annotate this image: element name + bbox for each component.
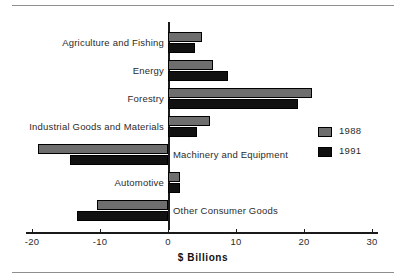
x-tick-label: -20 [25, 236, 40, 247]
bar-1988-6 [97, 200, 168, 210]
category-label: Energy [0, 64, 164, 77]
category-label: Machinery and Equipment [173, 148, 288, 161]
x-tick-0 [168, 229, 169, 234]
bar-1991-6 [77, 211, 168, 221]
legend-item-1988: 1988 [318, 124, 398, 144]
bar-1988-5 [168, 172, 180, 182]
bar-1991-4 [70, 155, 168, 165]
legend-label: 1991 [339, 145, 361, 156]
x-tick--10 [100, 229, 101, 234]
x-tick--20 [32, 229, 33, 234]
bar-1988-0 [168, 32, 202, 42]
legend-swatch-icon [318, 127, 332, 137]
bar-1988-1 [168, 60, 213, 70]
legend-swatch-icon [318, 147, 332, 157]
bar-1991-3 [168, 127, 197, 137]
category-label: Industrial Goods and Materials [0, 120, 164, 133]
x-axis-line [26, 232, 378, 234]
chart-figure: Agriculture and FishingEnergyForestryInd… [0, 0, 406, 280]
category-label: Other Consumer Goods [173, 204, 278, 217]
page-rule-bottom [12, 272, 394, 273]
x-tick-label: 0 [165, 236, 171, 247]
legend-item-1991: 1991 [318, 144, 398, 164]
category-label: Forestry [0, 92, 164, 105]
category-label: Agriculture and Fishing [0, 36, 164, 49]
x-axis-title: $ Billions [0, 252, 406, 263]
bar-1988-2 [168, 88, 312, 98]
x-tick-10 [236, 229, 237, 234]
bar-1988-4 [38, 144, 168, 154]
bar-1991-0 [168, 43, 195, 53]
bar-1991-5 [168, 183, 180, 193]
category-label: Automotive [0, 176, 164, 189]
bar-1988-3 [168, 116, 210, 126]
x-tick-label: 10 [230, 236, 241, 247]
x-tick-label: 30 [366, 236, 377, 247]
bar-1991-1 [168, 71, 228, 81]
x-tick-20 [304, 229, 305, 234]
page-rule-top [12, 5, 394, 6]
legend-label: 1988 [339, 125, 361, 136]
x-tick-label: -10 [93, 236, 108, 247]
x-tick-30 [372, 229, 373, 234]
chart-legend: 19881991 [318, 124, 398, 164]
bar-1991-2 [168, 99, 298, 109]
x-tick-label: 20 [298, 236, 309, 247]
